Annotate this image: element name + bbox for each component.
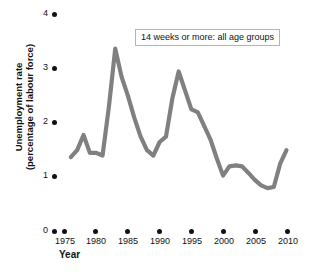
chart-container: 4 3 2 1 0 1975 1980 1985 1990 1995 2000 … bbox=[0, 0, 323, 277]
series-line-unemployment bbox=[71, 49, 287, 188]
plot-area bbox=[0, 0, 323, 277]
